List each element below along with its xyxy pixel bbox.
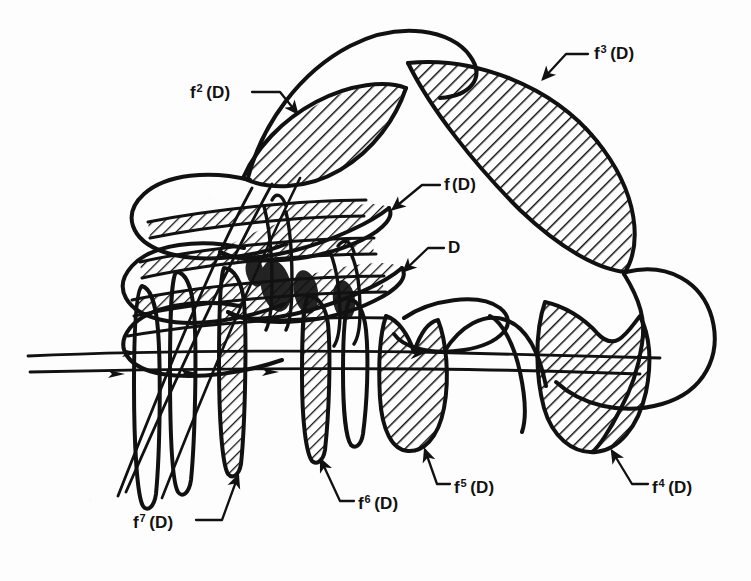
label-f2-d-base: f <box>190 83 196 102</box>
label-f4-d-exponent: 4 <box>658 477 666 489</box>
label-d: D <box>448 239 460 256</box>
label-f3-d-base: f <box>594 44 600 63</box>
label-f7-d-base: f <box>133 513 139 532</box>
label-f-d: f(D) <box>444 176 476 193</box>
label-f3-d-exponent: 3 <box>600 43 608 55</box>
label-f6-d: f6(D) <box>358 494 398 512</box>
label-f4-d-base: f <box>652 478 658 497</box>
label-f5-d: f5(D) <box>454 478 494 496</box>
label-f-d-base: f <box>444 175 450 194</box>
label-f5-d-exponent: 5 <box>460 477 468 489</box>
label-f6-d-argument: (D) <box>372 494 398 513</box>
label-f5-d-base: f <box>454 478 460 497</box>
label-f4-d-argument: (D) <box>666 478 692 497</box>
label-f5-d-argument: (D) <box>468 478 494 497</box>
label-f6-d-exponent: 6 <box>364 493 372 505</box>
label-f7-d-argument: (D) <box>147 513 173 532</box>
label-f3-d: f3(D) <box>594 44 634 62</box>
label-f3-d-argument: (D) <box>608 44 634 63</box>
label-f-d-argument: (D) <box>450 175 476 194</box>
label-f7-d: f7(D) <box>133 513 173 531</box>
label-f7-d-exponent: 7 <box>139 512 147 524</box>
label-f2-d-argument: (D) <box>204 83 230 102</box>
label-f4-d: f4(D) <box>652 478 692 496</box>
label-f2-d: f2(D) <box>190 83 230 101</box>
homoclinic-tangle-figure: f3(D)f2(D)f(D)Df7(D)f6(D)f5(D)f4(D) <box>0 0 751 581</box>
label-f2-d-exponent: 2 <box>196 82 204 94</box>
label-d-base: D <box>448 238 460 257</box>
label-f6-d-base: f <box>358 494 364 513</box>
